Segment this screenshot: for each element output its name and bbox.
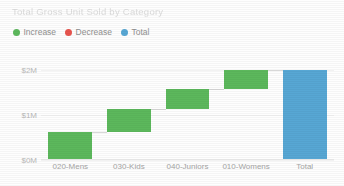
- legend-label: Increase: [24, 26, 57, 38]
- waterfall-chart-visual[interactable]: Total Gross Unit Sold by Category Increa…: [0, 0, 344, 186]
- legend-label: Decrease: [76, 26, 112, 38]
- waterfall-connector: [209, 89, 224, 90]
- circle-icon: [121, 29, 128, 36]
- x-axis-tick-label: 040-Juniors: [167, 162, 209, 172]
- x-axis-tick-label: 010-Womens: [222, 162, 269, 172]
- bar-020-mens[interactable]: [48, 132, 92, 160]
- y-axis-tick-label: $2M: [21, 65, 37, 74]
- bar-030-kids[interactable]: [107, 109, 151, 132]
- y-axis-tick-label: $1M: [21, 110, 37, 119]
- x-axis: 020-Mens030-Kids040-Juniors010-WomensTot…: [41, 162, 334, 176]
- x-axis-tick-label: 020-Mens: [53, 162, 89, 172]
- legend-item-total[interactable]: Total: [121, 26, 149, 38]
- circle-icon: [13, 29, 20, 36]
- legend-item-decrease[interactable]: Decrease: [65, 26, 112, 38]
- bar-040-juniors[interactable]: [166, 89, 210, 109]
- gridline: [41, 160, 334, 161]
- circle-icon: [65, 29, 72, 36]
- bar-010-womens[interactable]: [224, 70, 268, 89]
- axis-baseline: [41, 159, 334, 160]
- chart-legend: IncreaseDecreaseTotal: [13, 26, 149, 38]
- legend-label: Total: [132, 26, 150, 38]
- x-axis-tick-label: Total: [296, 162, 313, 172]
- waterfall-connector: [268, 70, 283, 71]
- bar-total[interactable]: [283, 70, 327, 160]
- waterfall-connector: [92, 132, 107, 133]
- page-title: Total Gross Unit Sold by Category: [12, 6, 163, 17]
- legend-item-increase[interactable]: Increase: [13, 26, 56, 38]
- y-axis-tick-label: $0M: [21, 156, 37, 165]
- y-axis: $0M$1M$2M: [9, 60, 41, 160]
- x-axis-tick-label: 030-Kids: [113, 162, 145, 172]
- plot-area: [41, 60, 334, 160]
- waterfall-connector: [151, 109, 166, 110]
